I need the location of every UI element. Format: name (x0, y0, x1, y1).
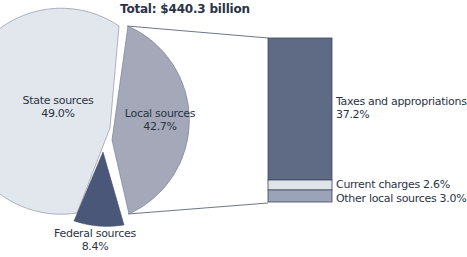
label-state-value: 49.0% (18, 107, 98, 120)
label-current-charges: Current charges 2.6% (336, 178, 450, 191)
bar-segment-other-local (268, 190, 332, 202)
label-local: Local sources 42.7% (120, 107, 200, 133)
bar-segment-taxes (268, 38, 332, 180)
connector-bottom-line (128, 203, 268, 214)
connector-top-line (127, 26, 268, 38)
label-local-name: Local sources (120, 107, 200, 120)
label-other-local: Other local sources 3.0% (336, 192, 466, 205)
label-taxes: Taxes and appropriations 37.2% (336, 95, 467, 121)
label-federal-value: 8.4% (50, 240, 140, 253)
label-state: State sources 49.0% (18, 94, 98, 120)
label-local-value: 42.7% (120, 120, 200, 133)
label-state-name: State sources (18, 94, 98, 107)
label-taxes-value: 37.2% (336, 108, 467, 121)
bar-segment-current-charges (268, 180, 332, 190)
label-taxes-name: Taxes and appropriations (336, 95, 467, 108)
label-federal-name: Federal sources (50, 227, 140, 240)
label-federal: Federal sources 8.4% (50, 227, 140, 253)
